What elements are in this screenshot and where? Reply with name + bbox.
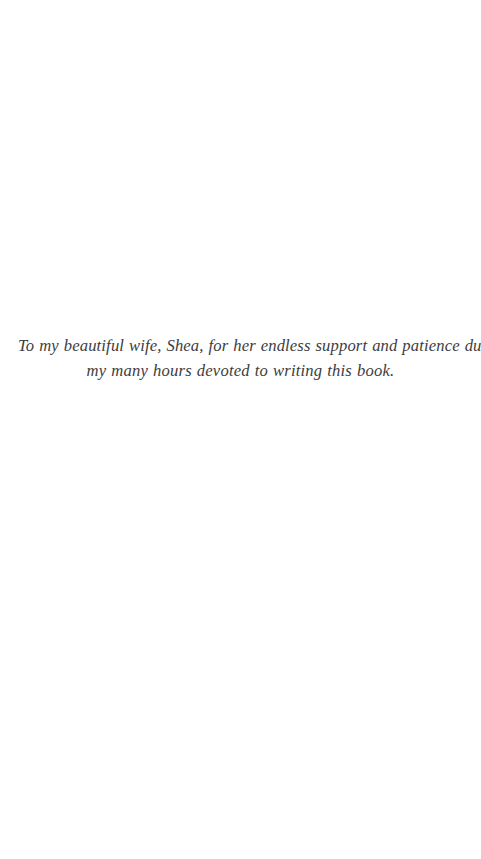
dedication-page: To my beautiful wife, Shea, for her endl… (0, 0, 481, 859)
dedication-line-2: my many hours devoted to writing this bo… (18, 358, 463, 383)
dedication-text-block: To my beautiful wife, Shea, for her endl… (0, 333, 481, 383)
dedication-line-1: To my beautiful wife, Shea, for her endl… (18, 333, 463, 358)
